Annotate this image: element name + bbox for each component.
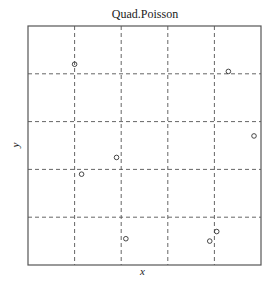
data-points (72, 62, 256, 243)
data-point-circle (226, 69, 231, 74)
data-point-circle (214, 229, 219, 234)
data-point-circle (79, 172, 84, 177)
x-axis-label: x (140, 265, 145, 277)
data-point-circle (252, 134, 257, 139)
plot-frame (28, 26, 261, 265)
scatter-plot (0, 0, 273, 284)
data-point-circle (207, 239, 212, 244)
grid-lines (28, 26, 261, 265)
data-point-circle (124, 236, 129, 241)
y-axis-label: y (9, 143, 21, 148)
data-point-circle (114, 155, 119, 160)
